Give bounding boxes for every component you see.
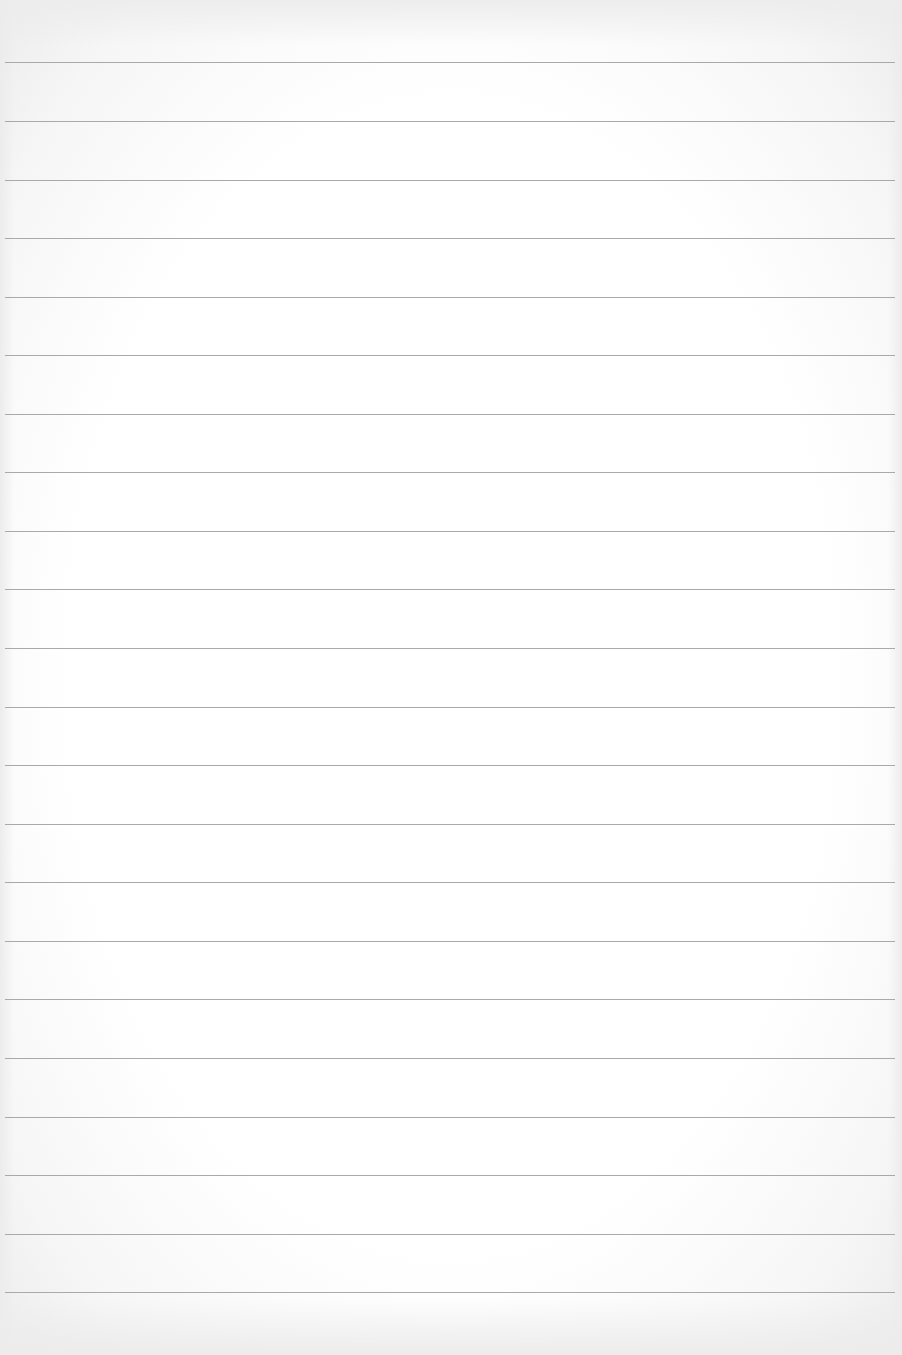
lined-paper-sheet xyxy=(0,0,902,1355)
ruled-line xyxy=(5,414,895,415)
ruled-line xyxy=(5,121,895,122)
ruled-line xyxy=(5,531,895,532)
ruled-line xyxy=(5,999,895,1000)
ruled-line xyxy=(5,941,895,942)
paper-edge-shading-right xyxy=(888,0,902,1355)
ruled-line xyxy=(5,1292,895,1293)
ruled-line xyxy=(5,765,895,766)
ruled-line xyxy=(5,472,895,473)
ruled-line xyxy=(5,355,895,356)
ruled-line xyxy=(5,589,895,590)
ruled-line xyxy=(5,62,895,63)
ruled-line xyxy=(5,1175,895,1176)
ruled-line xyxy=(5,1234,895,1235)
paper-edge-shading-left xyxy=(0,0,14,1355)
ruled-line xyxy=(5,238,895,239)
ruled-line xyxy=(5,824,895,825)
ruled-line xyxy=(5,297,895,298)
ruled-line xyxy=(5,1117,895,1118)
ruled-line xyxy=(5,707,895,708)
ruled-line xyxy=(5,882,895,883)
ruled-line xyxy=(5,1058,895,1059)
ruled-line xyxy=(5,180,895,181)
ruled-line xyxy=(5,648,895,649)
